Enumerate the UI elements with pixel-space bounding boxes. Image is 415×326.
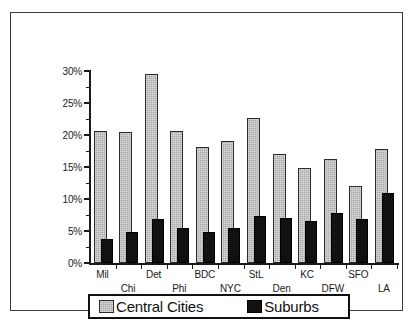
y-axis-minor-tick — [86, 183, 90, 184]
y-axis-tick-label: 25% — [63, 98, 82, 109]
chart-figure: 0%5%10%15%20%25%30% MilChiDetPhiBDCNYCSt… — [0, 0, 415, 326]
bar-suburbs — [203, 232, 215, 263]
x-axis-tick — [320, 263, 321, 269]
x-axis-tick — [371, 263, 372, 269]
legend-swatch-suburbs-icon — [247, 300, 262, 313]
x-axis-tick — [295, 263, 296, 269]
legend-label-central-cities: Central Cities — [116, 299, 203, 314]
bar-suburbs — [228, 228, 240, 263]
y-axis-tick-label: 30% — [63, 66, 82, 77]
bar-group — [349, 71, 375, 263]
bar-suburbs — [101, 239, 113, 263]
x-axis-label: DFW — [322, 283, 344, 294]
legend-label-suburbs: Suburbs — [264, 299, 318, 314]
y-axis-tick-label: 10% — [63, 194, 82, 205]
x-axis-label: Phi — [172, 283, 186, 294]
x-axis-tick — [192, 263, 193, 269]
y-axis-tick — [84, 102, 90, 104]
bar-suburbs — [382, 193, 394, 263]
bar-suburbs — [152, 219, 164, 263]
x-axis-label: NYC — [220, 283, 241, 294]
x-axis-tick — [116, 263, 117, 269]
y-axis-tick — [84, 198, 90, 200]
bar-suburbs — [254, 216, 266, 263]
bar-suburbs — [177, 228, 189, 263]
x-axis-label: LA — [378, 283, 390, 294]
y-axis-tick — [84, 134, 90, 136]
y-axis-tick — [84, 70, 90, 72]
bar-group — [273, 71, 299, 263]
bar-group — [196, 71, 222, 263]
y-axis-tick — [84, 166, 90, 168]
y-axis-tick-label: 0% — [68, 258, 82, 269]
bar-suburbs — [305, 221, 317, 263]
x-axis-tick — [218, 263, 219, 269]
bar-group — [375, 71, 401, 263]
bar-group — [170, 71, 196, 263]
bar-group — [324, 71, 350, 263]
bar-group — [145, 71, 171, 263]
y-axis-minor-tick — [86, 87, 90, 88]
y-axis-tick — [84, 262, 90, 264]
x-axis-label: SFO — [348, 269, 368, 280]
y-axis-tick-label: 20% — [63, 130, 82, 141]
x-axis-tick — [167, 263, 168, 269]
y-axis-tick — [84, 230, 90, 232]
x-axis-label: Den — [273, 283, 291, 294]
x-axis-label: Det — [146, 269, 161, 280]
x-axis-label: StL — [249, 269, 264, 280]
y-axis-minor-tick — [86, 215, 90, 216]
bar-suburbs — [280, 218, 292, 263]
x-axis-label: Mil — [96, 269, 108, 280]
legend-item-suburbs: Suburbs — [247, 296, 318, 317]
y-axis-tick-label: 5% — [68, 226, 82, 237]
x-axis-tick — [269, 263, 270, 269]
figure-frame: 0%5%10%15%20%25%30% MilChiDetPhiBDCNYCSt… — [10, 12, 403, 311]
x-axis-line — [90, 263, 399, 265]
chart-legend: Central Cities Suburbs — [88, 294, 350, 319]
bar-group — [119, 71, 145, 263]
x-axis-tick — [244, 263, 245, 269]
bar-group — [247, 71, 273, 263]
y-axis-minor-tick — [86, 247, 90, 248]
x-axis-label: KC — [300, 269, 314, 280]
x-axis-tick — [141, 263, 142, 269]
bar-group — [94, 71, 120, 263]
legend-swatch-central-cities-icon — [99, 300, 114, 313]
y-axis-tick-label: 15% — [63, 162, 82, 173]
bar-group — [221, 71, 247, 263]
bar-suburbs — [356, 219, 368, 263]
x-axis-label: Chi — [121, 283, 136, 294]
plot-area: 0%5%10%15%20%25%30% — [90, 71, 397, 263]
x-axis-tick — [346, 263, 347, 269]
y-axis-minor-tick — [86, 119, 90, 120]
bar-suburbs — [331, 213, 343, 263]
bar-group — [298, 71, 324, 263]
legend-item-central-cities: Central Cities — [99, 296, 203, 317]
bar-suburbs — [126, 232, 138, 263]
x-axis-tick — [397, 263, 398, 269]
x-axis-label: BDC — [194, 269, 215, 280]
y-axis-minor-tick — [86, 151, 90, 152]
